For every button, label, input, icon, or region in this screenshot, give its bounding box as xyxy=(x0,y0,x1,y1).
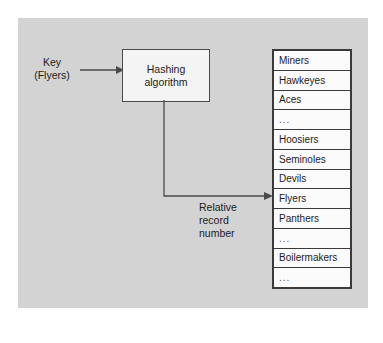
record-row: Boilermakers xyxy=(274,249,350,269)
record-row: Flyers xyxy=(274,189,350,209)
record-row: Seminoles xyxy=(274,150,350,170)
record-row: Miners xyxy=(274,51,350,71)
record-list: MinersHawkeyesAces...HoosiersSeminolesDe… xyxy=(272,49,352,289)
hashing-box-line1: Hashing xyxy=(147,63,186,76)
rrn-line3: number xyxy=(199,227,237,240)
hashing-box-line2: algorithm xyxy=(144,76,187,89)
record-row: Aces xyxy=(274,91,350,111)
record-row: Panthers xyxy=(274,209,350,229)
relative-record-number-label: Relative record number xyxy=(199,201,237,240)
rrn-line1: Relative xyxy=(199,201,237,214)
hashing-to-record-connector-icon xyxy=(158,100,274,204)
hashing-algorithm-box: Hashing algorithm xyxy=(122,49,210,102)
rrn-line2: record xyxy=(199,214,237,227)
key-to-hashing-arrow-icon xyxy=(80,62,124,78)
hashing-diagram: Key (Flyers) Hashing algorithm Relative … xyxy=(0,0,383,343)
record-row: Devils xyxy=(274,170,350,190)
record-row: ... xyxy=(274,268,350,287)
record-row: ... xyxy=(274,229,350,249)
record-row: Hoosiers xyxy=(274,130,350,150)
record-row: Hawkeyes xyxy=(274,71,350,91)
record-row: ... xyxy=(274,110,350,130)
